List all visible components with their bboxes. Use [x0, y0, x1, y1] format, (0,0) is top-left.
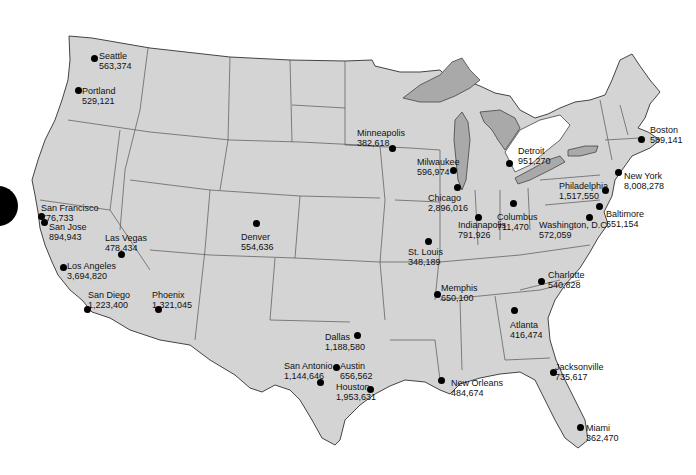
city-name: Jacksonville [555, 362, 604, 372]
city-name: Baltimore [606, 209, 644, 219]
city-dot-memphis-icon [434, 291, 441, 298]
city-dot-columbus-icon [510, 200, 517, 207]
city-name: Denver [241, 232, 274, 242]
city-name: Austin [340, 361, 373, 371]
city-name: Seattle [99, 51, 132, 61]
city-name: San Francisco [41, 203, 99, 213]
city-dot-san-jose-icon [41, 219, 48, 226]
city-name: Washington, D.C. [539, 220, 609, 230]
city-label-san-antonio: San Antonio1,144,646 [284, 361, 333, 381]
city-name: Houston [336, 382, 376, 392]
city-population: 651,154 [606, 219, 644, 229]
city-dot-austin-icon [333, 364, 340, 371]
city-label-new-orleans: New Orleans484,674 [451, 378, 503, 398]
city-population: 711,470 [497, 222, 538, 232]
city-dot-st-louis-icon [425, 238, 432, 245]
city-label-washington-d-c: Washington, D.C.572,059 [539, 220, 609, 240]
city-population: 656,562 [340, 371, 373, 381]
city-population: 563,374 [99, 61, 132, 71]
city-label-atlanta: Atlanta416,474 [510, 320, 543, 340]
city-population: 416,474 [510, 330, 543, 340]
city-dot-portland-icon [75, 87, 82, 94]
city-name: Philadelphia [559, 181, 608, 191]
city-label-austin: Austin656,562 [340, 361, 373, 381]
city-population: 1,223,400 [88, 300, 130, 310]
city-label-new-york: New York8,008,278 [624, 171, 664, 191]
city-label-baltimore: Baltimore651,154 [606, 209, 644, 229]
city-label-chicago: Chicago2,896,016 [428, 193, 468, 213]
city-name: Chicago [428, 193, 468, 203]
city-population: 1,953,631 [336, 392, 376, 402]
city-label-denver: Denver554,636 [241, 232, 274, 252]
city-name: Columbus [497, 212, 538, 222]
city-dot-denver-icon [253, 220, 260, 227]
city-name: Portland [82, 86, 116, 96]
city-name: Minneapolis [357, 128, 405, 138]
city-population: 596,974 [417, 167, 460, 177]
city-population: 540,828 [548, 280, 585, 290]
city-name: San Jose [49, 222, 87, 232]
city-population: 1,517,550 [559, 191, 608, 201]
city-dot-seattle-icon [91, 55, 98, 62]
city-population: 3,694,820 [67, 271, 116, 281]
city-name: Detroit [518, 146, 551, 156]
city-name: Atlanta [510, 320, 543, 330]
city-dot-charlotte-icon [538, 278, 545, 285]
city-dot-chicago-icon [454, 184, 461, 191]
city-name: Las Vegas [105, 233, 147, 243]
city-dot-new-york-icon [615, 169, 622, 176]
city-population: 951,270 [518, 156, 551, 166]
city-dot-los-angeles-icon [60, 264, 67, 271]
city-label-portland: Portland529,121 [82, 86, 116, 106]
city-label-columbus: Columbus711,470 [497, 212, 538, 232]
city-name: Dallas [325, 332, 365, 342]
city-dot-miami-icon [577, 424, 584, 431]
city-population: 1,144,646 [284, 371, 333, 381]
city-label-houston: Houston1,953,631 [336, 382, 376, 402]
city-name: New Orleans [451, 378, 503, 388]
city-population: 735,617 [555, 372, 604, 382]
city-dot-new-orleans-icon [438, 377, 445, 384]
city-population: 894,943 [49, 232, 87, 242]
city-name: Memphis [441, 283, 478, 293]
city-label-charlotte: Charlotte540,828 [548, 270, 585, 290]
city-label-san-jose: San Jose894,943 [49, 222, 87, 242]
city-population: 529,121 [82, 96, 116, 106]
city-population: 650,100 [441, 293, 478, 303]
city-name: Charlotte [548, 270, 585, 280]
city-population: 362,470 [586, 433, 619, 443]
city-dot-baltimore-icon [596, 203, 603, 210]
city-name: Milwaukee [417, 157, 460, 167]
city-population: 8,008,278 [624, 181, 664, 191]
city-population: 1,321,045 [152, 300, 192, 310]
city-dot-boston-icon [638, 136, 645, 143]
city-label-boston: Boston589,141 [650, 125, 683, 145]
city-label-detroit: Detroit951,270 [518, 146, 551, 166]
city-population: 348,189 [408, 257, 443, 267]
city-population: 1,188,580 [325, 342, 365, 352]
city-population: 382,618 [357, 138, 405, 148]
city-population: 2,896,016 [428, 203, 468, 213]
city-population: 589,141 [650, 135, 683, 145]
city-dot-detroit-icon [506, 160, 513, 167]
city-label-st-louis: St. Louis348,189 [408, 247, 443, 267]
city-population: 554,636 [241, 242, 274, 252]
city-name: Boston [650, 125, 683, 135]
city-label-san-diego: San Diego1,223,400 [88, 290, 130, 310]
city-label-miami: Miami362,470 [586, 423, 619, 443]
city-name: St. Louis [408, 247, 443, 257]
city-label-philadelphia: Philadelphia1,517,550 [559, 181, 608, 201]
city-dot-atlanta-icon [511, 307, 518, 314]
city-label-dallas: Dallas1,188,580 [325, 332, 365, 352]
city-population: 572,059 [539, 230, 609, 240]
city-label-phoenix: Phoenix1,321,045 [152, 290, 192, 310]
city-label-minneapolis: Minneapolis382,618 [357, 128, 405, 148]
city-name: Phoenix [152, 290, 192, 300]
city-name: Los Angeles [67, 261, 116, 271]
city-label-seattle: Seattle563,374 [99, 51, 132, 71]
city-name: San Antonio [284, 361, 333, 371]
city-label-san-francisco: San Francisco776,733 [41, 203, 99, 223]
city-name: New York [624, 171, 664, 181]
city-label-las-vegas: Las Vegas478,434 [105, 233, 147, 253]
city-label-jacksonville: Jacksonville735,617 [555, 362, 604, 382]
